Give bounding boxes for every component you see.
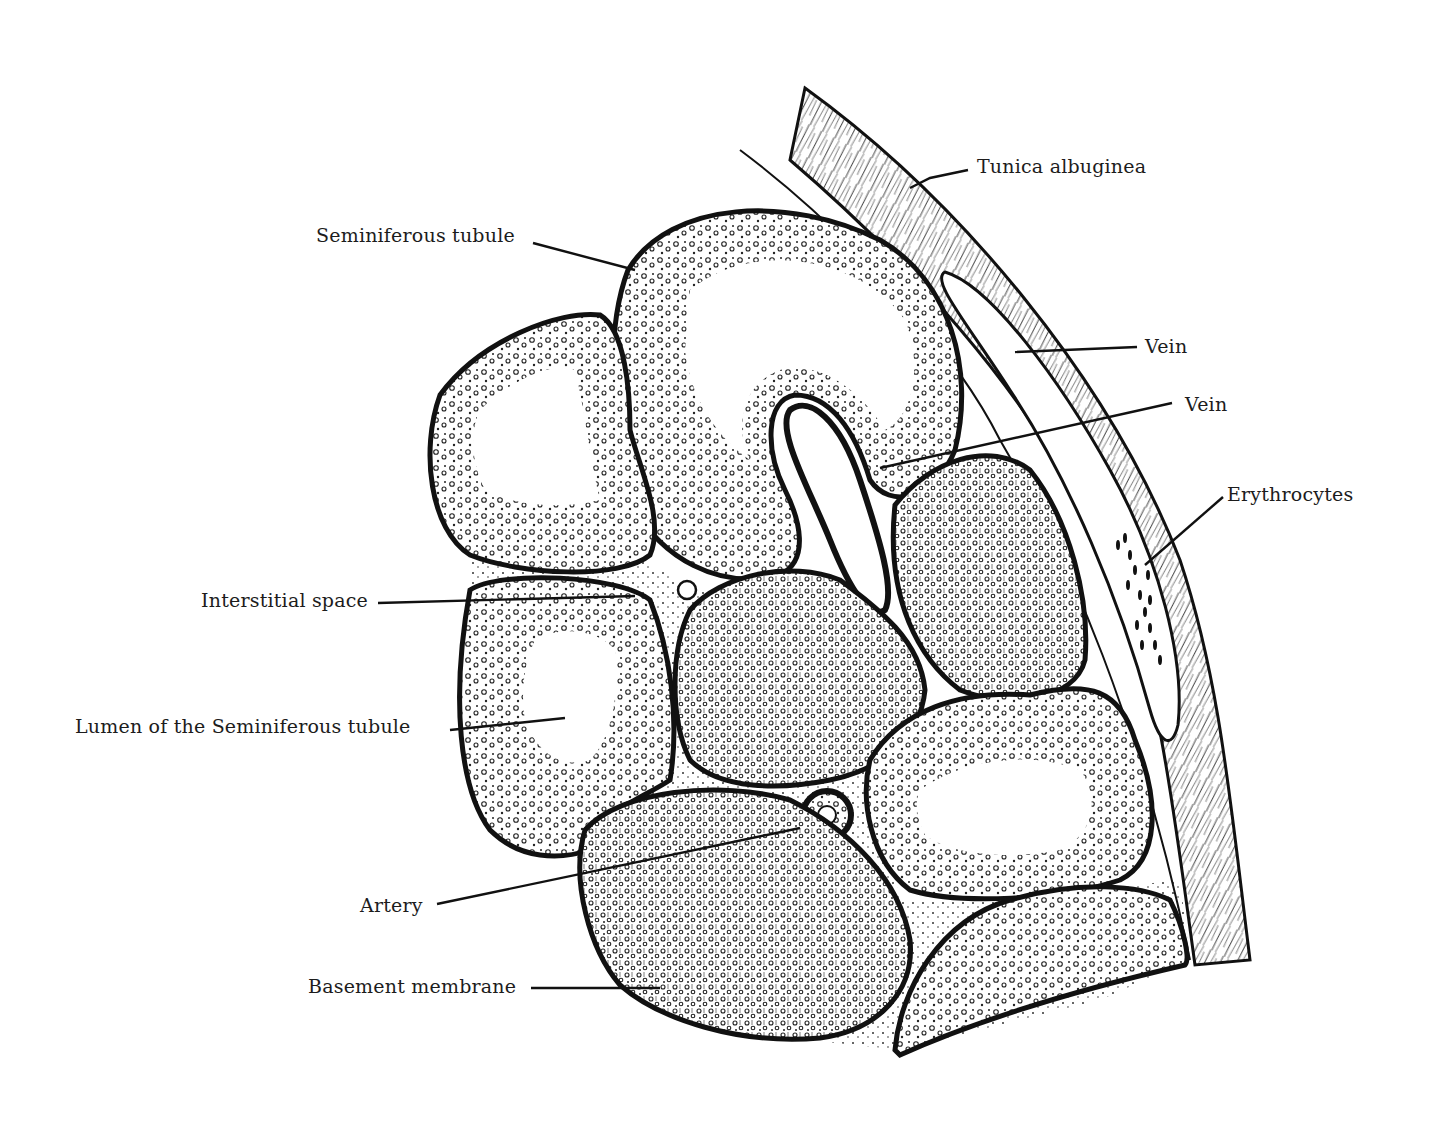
label-lumen: Lumen of the Seminiferous tubule bbox=[75, 717, 411, 736]
label-basement-membrane: Basement membrane bbox=[308, 977, 516, 996]
label-artery: Artery bbox=[360, 896, 423, 915]
seminiferous-tubule-right-middle bbox=[893, 456, 1085, 700]
label-vein-1: Vein bbox=[1145, 337, 1187, 356]
label-tunica-albuginea: Tunica albuginea bbox=[977, 157, 1146, 176]
label-interstitial-space: Interstitial space bbox=[201, 591, 368, 610]
small-vessel bbox=[678, 581, 696, 599]
label-erythrocytes: Erythrocytes bbox=[1227, 485, 1354, 504]
leader-seminiferous bbox=[533, 243, 635, 270]
testis-diagram bbox=[0, 0, 1438, 1121]
label-vein-2: Vein bbox=[1185, 395, 1227, 414]
label-seminiferous-tubule: Seminiferous tubule bbox=[316, 226, 515, 245]
